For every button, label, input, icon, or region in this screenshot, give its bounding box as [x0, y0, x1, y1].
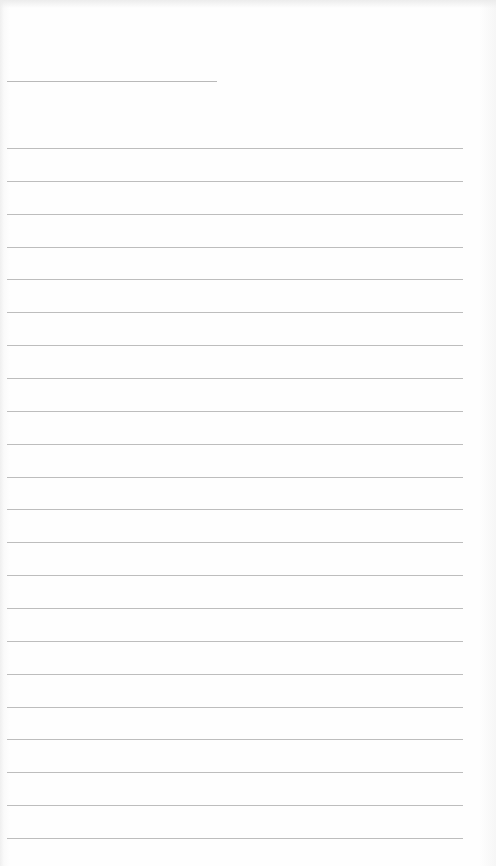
- ruled-line: [7, 805, 463, 806]
- ruled-line: [7, 214, 463, 215]
- scan-edge-shadow: [0, 0, 496, 8]
- ruled-line: [7, 641, 463, 642]
- ruled-line: [7, 674, 463, 675]
- ruled-line: [7, 378, 463, 379]
- ruled-line: [7, 542, 463, 543]
- ruled-line: [7, 279, 463, 280]
- ruled-line: [7, 411, 463, 412]
- ruled-line: [7, 477, 463, 478]
- ruled-line: [7, 772, 463, 773]
- ruled-line: [7, 247, 463, 248]
- ruled-line: [7, 181, 463, 182]
- ruled-line: [7, 838, 463, 839]
- ruled-line: [7, 739, 463, 740]
- ruled-line: [7, 312, 463, 313]
- ruled-page: [0, 0, 496, 866]
- ruled-line: [7, 509, 463, 510]
- ruled-line: [7, 345, 463, 346]
- ruled-line: [7, 444, 463, 445]
- ruled-line: [7, 608, 463, 609]
- ruled-line: [7, 148, 463, 149]
- ruled-line: [7, 575, 463, 576]
- header-line: [7, 81, 217, 82]
- ruled-line: [7, 707, 463, 708]
